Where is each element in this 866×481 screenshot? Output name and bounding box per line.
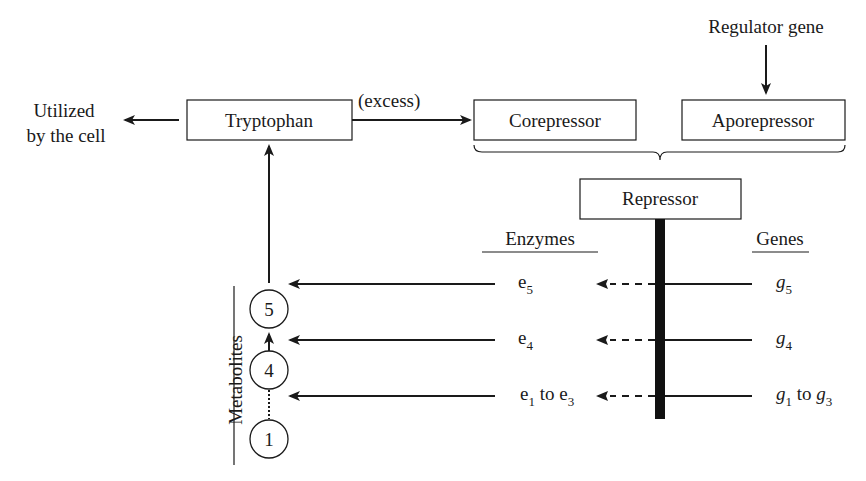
repressor-blocking-bar <box>655 219 665 419</box>
tryptophan-label: Tryptophan <box>225 110 313 131</box>
corepressor-box: Corepressor <box>474 100 636 140</box>
row-e4-g4: e4 g4 <box>290 327 793 353</box>
utilized-label-line2: by the cell <box>26 125 105 146</box>
arrowhead-e1-e3 <box>596 391 608 401</box>
metabolite-1: 1 <box>250 420 288 458</box>
arrowhead-e5 <box>596 279 608 289</box>
aporepressor-box: Aporepressor <box>682 100 845 140</box>
repressor-label: Repressor <box>622 188 699 209</box>
corepressor-label: Corepressor <box>509 110 601 131</box>
metabolite-4: 4 <box>250 351 288 389</box>
metabolite-5: 5 <box>250 290 288 328</box>
svg-text:5: 5 <box>264 299 274 320</box>
svg-text:4: 4 <box>264 360 274 381</box>
tryptophan-box: Tryptophan <box>187 100 352 140</box>
row-e1e3-g1g3: e1 to e3 g1 to g3 <box>290 383 832 409</box>
gene-g1-to-g3: g1 to g3 <box>776 383 832 409</box>
svg-text:1: 1 <box>264 429 274 450</box>
excess-label: (excess) <box>358 90 420 112</box>
row-e5-g5: e5 g5 <box>290 271 792 297</box>
arrowhead-e4 <box>596 335 608 345</box>
enzymes-heading: Enzymes <box>505 228 575 249</box>
genes-heading: Genes <box>756 228 803 249</box>
metabolites-label: Metabolites <box>225 335 246 425</box>
enzyme-e5: e5 <box>518 271 533 297</box>
enzyme-e1-to-e3: e1 to e3 <box>520 383 574 409</box>
gene-g5: g5 <box>776 271 792 297</box>
regulator-gene-label: Regulator gene <box>708 16 824 37</box>
curly-brace <box>474 145 845 160</box>
repressor-box: Repressor <box>580 179 741 219</box>
utilized-label-line1: Utilized <box>33 100 95 121</box>
aporepressor-label: Aporepressor <box>712 110 815 131</box>
gene-g4: g4 <box>776 327 793 353</box>
enzyme-e4: e4 <box>518 327 533 353</box>
trp-repression-diagram: Utilized by the cell Tryptophan (excess)… <box>0 0 866 481</box>
